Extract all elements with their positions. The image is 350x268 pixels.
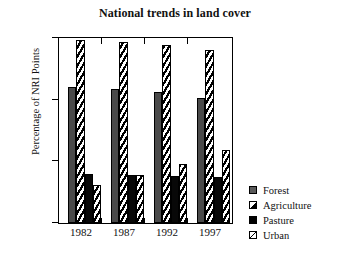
x-tick-bottom-2	[144, 218, 145, 223]
plot-area	[58, 37, 233, 224]
bar-agriculture-1987	[119, 42, 128, 223]
legend-item-urban: Urban	[249, 228, 349, 242]
bar-pasture-1987	[128, 175, 136, 223]
x-tick-top-3	[187, 38, 188, 44]
bar-urban-1982	[93, 185, 101, 223]
x-tick-top-2	[144, 38, 145, 44]
chart-legend: Forest Agriculture Pasture Urban	[249, 183, 349, 243]
bar-forest-1982	[68, 87, 76, 223]
legend-label-pasture: Pasture	[263, 215, 294, 226]
solid-gray-swatch-icon	[249, 186, 257, 194]
bar-agriculture-1997	[205, 50, 214, 223]
x-tick-top-1	[101, 38, 102, 44]
x-tick-label-1982: 1982	[58, 226, 104, 238]
bar-pasture-1982	[85, 174, 93, 223]
chart-title: National trends in land cover	[0, 6, 350, 21]
bar-urban-1992	[179, 164, 187, 223]
bar-urban-1987	[136, 175, 144, 223]
legend-label-agriculture: Agriculture	[263, 200, 311, 211]
bar-forest-1987	[111, 89, 119, 223]
x-tick-label-1987: 1987	[101, 226, 147, 238]
legend-label-forest: Forest	[263, 185, 289, 196]
y-axis-label: Percentage of NRI Points	[30, 7, 41, 197]
legend-item-pasture: Pasture	[249, 213, 349, 227]
legend-item-agriculture: Agriculture	[249, 198, 349, 212]
bar-pasture-1997	[214, 177, 222, 223]
diagonal-line-swatch-icon	[249, 231, 257, 239]
bar-pasture-1992	[171, 176, 179, 223]
solid-black-swatch-icon	[249, 216, 257, 224]
bar-forest-1992	[154, 92, 162, 223]
x-tick-label-1997: 1997	[187, 226, 233, 238]
bar-urban-1997	[222, 150, 230, 223]
legend-item-forest: Forest	[249, 183, 349, 197]
bar-agriculture-1982	[76, 40, 85, 223]
chart-container: National trends in land cover Percentage…	[0, 0, 350, 268]
bar-forest-1997	[197, 98, 205, 223]
legend-label-urban: Urban	[263, 230, 289, 241]
x-tick-bottom-1	[101, 218, 102, 223]
half-diagonal-swatch-icon	[249, 201, 257, 209]
x-tick-bottom-3	[187, 218, 188, 223]
x-tick-label-1992: 1992	[144, 226, 190, 238]
bar-agriculture-1992	[162, 45, 171, 223]
